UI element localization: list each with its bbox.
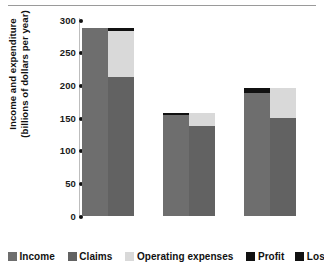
bar-property-income[interactable] <box>244 88 270 216</box>
legend-swatch-claims-icon <box>68 252 77 261</box>
segment-property-loss <box>244 88 270 93</box>
y-tick-label-150: 150 <box>60 113 76 124</box>
segment-health-claims <box>189 126 215 216</box>
y-tick-label-200: 200 <box>60 80 76 91</box>
legend-label-loss: Loss <box>307 251 324 262</box>
y-tick-100: 100 <box>38 145 76 157</box>
plot-area: Income and expenditure (billions of doll… <box>0 0 324 273</box>
y-tick-dot-300 <box>79 19 83 23</box>
segment-property-operating-expenses <box>270 88 296 118</box>
chart-legend: Income Claims Operating expenses Profit … <box>8 248 318 264</box>
bar-health-income[interactable] <box>163 113 189 216</box>
bar-life-expenditure[interactable] <box>108 28 134 216</box>
y-axis-title-line1: Income and expenditure <box>7 0 19 169</box>
bar-property-expenditure[interactable] <box>270 88 296 216</box>
y-axis-title: Income and expenditure (billions of doll… <box>7 0 31 169</box>
segment-health-income <box>163 115 189 216</box>
legend-item-profit[interactable]: Profit <box>246 251 284 262</box>
legend-label-operating-expenses: Operating expenses <box>137 251 234 262</box>
legend-swatch-profit-icon <box>246 252 255 261</box>
legend-item-loss[interactable]: Loss <box>295 251 324 262</box>
bar-life-income[interactable] <box>82 28 108 216</box>
legend-item-claims[interactable]: Claims <box>68 251 113 262</box>
segment-property-claims <box>270 118 296 216</box>
y-tick-label-250: 250 <box>60 47 76 58</box>
y-tick-label-50: 50 <box>65 178 76 189</box>
legend-label-claims: Claims <box>79 251 112 262</box>
segment-health-loss <box>163 113 189 116</box>
legend-swatch-loss-icon <box>295 252 304 261</box>
segment-life-profit <box>108 28 134 31</box>
y-tick-300: 300 <box>38 14 76 26</box>
legend-item-operating-expenses[interactable]: Operating expenses <box>125 251 233 262</box>
chart-figure: Income and expenditure (billions of doll… <box>0 0 324 273</box>
legend-swatch-income-icon <box>8 252 17 261</box>
y-tick-150: 150 <box>38 112 76 124</box>
y-axis-title-line2: (billions of dollars per year) <box>19 0 31 169</box>
legend-label-income: Income <box>20 251 55 262</box>
segment-life-income <box>82 28 108 216</box>
y-tick-0: 0 <box>38 210 76 222</box>
y-tick-50: 50 <box>38 177 76 189</box>
y-tick-250: 250 <box>38 47 76 59</box>
segment-property-income <box>244 93 270 216</box>
y-tick-label-100: 100 <box>60 145 76 156</box>
legend-item-income[interactable]: Income <box>8 251 55 262</box>
legend-swatch-operating-expenses-icon <box>125 252 134 261</box>
segment-life-claims <box>108 77 134 216</box>
bar-health-expenditure[interactable] <box>189 113 215 216</box>
segment-life-operating-expenses <box>108 31 134 77</box>
legend-label-profit: Profit <box>258 251 284 262</box>
y-tick-label-0: 0 <box>71 211 76 222</box>
y-tick-label-300: 300 <box>60 15 76 26</box>
segment-health-operating-expenses <box>189 113 215 126</box>
y-tick-200: 200 <box>38 79 76 91</box>
